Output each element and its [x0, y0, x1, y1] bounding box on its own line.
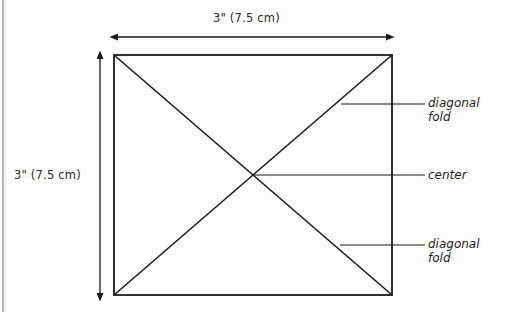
callout-center: center — [428, 168, 467, 182]
callout-center-line1: center — [428, 168, 467, 182]
height-dimension-label: 3" (7.5 cm) — [14, 168, 81, 182]
callout-diagonal-fold-top-line1: diagonal — [428, 96, 480, 110]
callout-diagonal-fold-bottom: diagonal fold — [428, 237, 480, 265]
callout-diagonal-fold-bottom-line1: diagonal — [428, 237, 480, 251]
width-dimension-label: 3" (7.5 cm) — [213, 11, 280, 25]
callout-diagonal-fold-top-line2: fold — [428, 110, 480, 124]
square-fold-diagram — [0, 0, 507, 312]
diagram-page: 3" (7.5 cm) 3" (7.5 cm) diagonal fold ce… — [0, 0, 507, 312]
callout-diagonal-fold-top: diagonal fold — [428, 96, 480, 124]
callout-diagonal-fold-bottom-line2: fold — [428, 251, 480, 265]
